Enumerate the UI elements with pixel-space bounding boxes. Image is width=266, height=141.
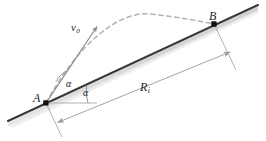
figure-canvas <box>0 0 266 141</box>
extension-line-b <box>214 24 236 70</box>
label-range: Ri <box>140 81 149 93</box>
label-range-subscript: i <box>148 86 150 95</box>
point-a-marker <box>43 100 48 105</box>
projectile-incline-figure: A B v0 α α Ri <box>0 0 266 141</box>
label-point-b: B <box>209 10 216 22</box>
incline-shadow <box>8 7 258 129</box>
label-point-a: A <box>33 92 40 104</box>
label-initial-velocity-subscript: 0 <box>76 27 80 35</box>
label-angle-upper: α <box>66 79 71 89</box>
label-initial-velocity: v0 <box>71 22 79 33</box>
label-range-base: R <box>140 80 147 94</box>
label-angle-lower: α <box>83 88 88 98</box>
